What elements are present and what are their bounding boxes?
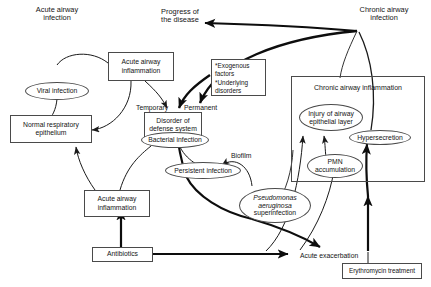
group-title-chronic-airway-inflammation: Chronic airway inflammation	[291, 84, 425, 91]
region-caption-progress-of-disease: Progress of the disease	[146, 8, 214, 25]
edge-label-temporary: Temporary	[136, 104, 168, 111]
edge-hub-to-chronic-inflammation	[340, 31, 357, 78]
edge-acute-inflammation-to-viral-infection	[57, 54, 108, 65]
node-acute-airway-inflammation-top[interactable]: Acute airway inflammation	[108, 52, 174, 81]
node-antibiotics[interactable]: Antibiotics	[92, 247, 153, 262]
node-hypersecretion[interactable]: Hypersecretion	[349, 130, 411, 145]
node-pmn-accumulation[interactable]: PMN accumulation	[307, 154, 363, 178]
pseudomonas-superinfection-word: superinfection	[254, 209, 296, 217]
edge-acute-inflammation-bottom-to-normal-epithelium	[76, 147, 95, 190]
edge-top-arc-to-progress-of-disease	[205, 23, 357, 31]
node-persistent-infection[interactable]: Persistent infection	[165, 162, 241, 179]
pseudomonas-species-name: Pseudomonas aeruginosa	[253, 194, 296, 210]
diagram-canvas: Acute airway infection Progress of the d…	[0, 0, 431, 287]
node-acute-airway-inflammation-bottom[interactable]: Acute airway inflammation	[84, 190, 150, 217]
edge-label-acute-exacerbation: Acute exacerbation	[300, 252, 358, 259]
node-viral-infection[interactable]: Viral infection	[25, 82, 89, 100]
edge-acute-inflammation-to-normal-epithelium	[92, 81, 131, 130]
edge-label-permanent: Permanent	[184, 104, 217, 111]
edge-pseudomonas-to-acute-exacerbation	[252, 219, 320, 247]
node-injury-of-airway-epithelial-layer[interactable]: Injury of airway epithelial layer	[299, 104, 363, 131]
edge-bacterial-to-acute-inflammation-bottom	[120, 146, 151, 190]
node-bacterial-infection[interactable]: Bacterial infection	[141, 132, 209, 148]
region-caption-acute-airway-infection: Acute airway infection	[14, 6, 100, 23]
node-pseudomonas-aeruginosa-superinfection[interactable]: Pseudomonas aeruginosa superinfection	[239, 188, 311, 223]
edge-label-biofilm: Biofilm	[231, 152, 251, 159]
node-exogenous-factors-underlying-disorders[interactable]: *Exogenous factors *Underlying disorders	[211, 59, 266, 96]
node-normal-respiratory-epithelium[interactable]: Normal respiratory epithelium	[10, 115, 92, 143]
node-erythromycin-treatment[interactable]: Erythromycin treatment	[342, 263, 422, 279]
region-caption-chronic-airway-infection: Chronic airway infection	[343, 6, 425, 23]
